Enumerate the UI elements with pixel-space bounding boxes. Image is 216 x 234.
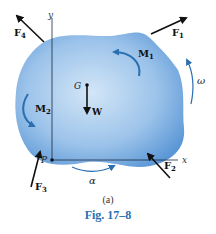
omega-curl-arrow [187, 60, 193, 104]
figure-caption: Fig. 17–8 [0, 208, 216, 223]
force-f2-label: F2 [164, 160, 176, 173]
y-axis-label: y [47, 10, 54, 20]
force-f3-label: F3 [35, 181, 47, 194]
x-axis-label: x [182, 155, 187, 165]
point-g-label: G [74, 81, 81, 91]
force-f4-label: F4 [14, 27, 26, 40]
alpha-label: α [89, 175, 96, 186]
weight-label: W [91, 107, 103, 117]
force-f1-label: F1 [172, 27, 184, 40]
omega-label: ω [197, 75, 205, 86]
alpha-curl-arrow [72, 166, 114, 171]
point-p-marker [50, 158, 54, 162]
rigid-body-shape [15, 32, 184, 167]
point-p-label: P [40, 155, 48, 165]
sub-figure-label: (a) [0, 194, 216, 205]
